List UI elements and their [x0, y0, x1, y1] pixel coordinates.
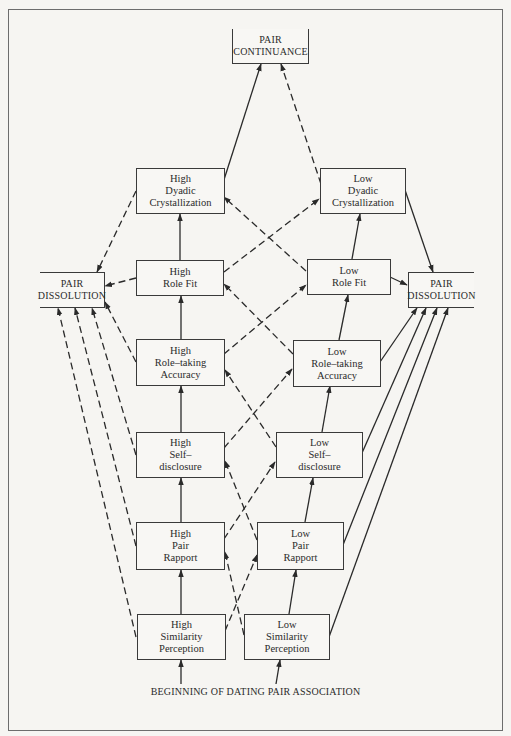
pair-continuance-node: PAIR CONTINUANCE [232, 29, 309, 64]
pair-dissolution-right-line-1: PAIR [430, 278, 453, 290]
node-line: Crystallization [332, 197, 394, 209]
low-role-taking-accuracy-node: Low Role–taking Accuracy [293, 340, 381, 387]
high-role-taking-accuracy-node: High Role–taking Accuracy [136, 339, 225, 386]
high-role-fit-node: High Role Fit [136, 260, 224, 296]
edge-low-self-high-roletaking [225, 370, 276, 447]
node-line: Low [339, 265, 358, 277]
high-self-disclosure-node: High Self– disclosure [136, 432, 225, 478]
node-line: High [171, 619, 192, 631]
node-line: Accuracy [160, 369, 200, 381]
node-line: Pair [292, 540, 309, 552]
edge-low-roletaking-dissolution-right [380, 308, 417, 362]
low-pair-rapport-node: Low Pair Rapport [257, 522, 344, 570]
edge-low-rolefit-low-dyadic [352, 214, 360, 259]
node-line: High [170, 345, 191, 357]
edge-high-similarity-dissolution-left [58, 308, 136, 637]
edge-high-dyadic-dissolution-left [97, 191, 136, 272]
node-line: disclosure [159, 461, 202, 473]
edge-low-dyadic-dissolution-right [405, 190, 433, 272]
pair-dissolution-right-line-2: DISSOLUTION [407, 290, 475, 302]
node-line: Dyadic [165, 185, 195, 197]
node-line: disclosure [298, 461, 341, 473]
node-line: Low [277, 619, 296, 631]
low-self-disclosure-node: Low Self– disclosure [276, 432, 363, 478]
node-line: Similarity [266, 631, 308, 643]
node-line: High [170, 173, 191, 185]
low-similarity-perception-node: Low Similarity Perception [244, 614, 330, 660]
edge-low-rolefit-high-dyadic [224, 197, 306, 271]
node-line: Role Fit [332, 277, 366, 289]
edge-high-self-dissolution-left [92, 308, 136, 455]
edge-low-self-low-roletaking [322, 386, 330, 432]
node-line: Role–taking [311, 358, 362, 370]
node-line: Rapport [164, 552, 198, 564]
low-dyadic-crystallization-node: Low Dyadic Crystallization [320, 168, 406, 214]
edge-low-similarity-high-rapport [225, 552, 244, 635]
start-label: BEGINNING OF DATING PAIR ASSOCIATION [0, 686, 511, 697]
node-line: Self– [169, 449, 191, 461]
pair-dissolution-left-line-1: PAIR [61, 278, 84, 290]
edge-low-dyadic-continuance [281, 64, 321, 184]
edge-low-roletaking-low-rolefit [339, 295, 348, 340]
node-line: Rapport [284, 552, 318, 564]
edge-high-dyadic-continuance [222, 64, 261, 186]
node-line: High [170, 528, 191, 540]
node-line: Perception [159, 643, 204, 655]
node-line: Low [327, 346, 346, 358]
node-line: Crystallization [150, 197, 212, 209]
node-line: Self– [308, 449, 330, 461]
high-dyadic-crystallization-node: High Dyadic Crystallization [136, 168, 225, 214]
edge-low-similarity-low-rapport [289, 570, 296, 614]
edge-start-low-similarity [276, 660, 280, 684]
node-line: Similarity [161, 631, 203, 643]
node-line: Accuracy [317, 370, 357, 382]
pair-dissolution-left-node: PAIR DISSOLUTION [40, 272, 105, 308]
edge-low-rolefit-dissolution-right [390, 277, 407, 285]
node-line: Low [353, 173, 372, 185]
high-pair-rapport-node: High Pair Rapport [136, 522, 225, 570]
edge-low-rapport-low-self [305, 478, 313, 522]
edge-low-roletaking-high-rolefit [224, 284, 293, 354]
edge-high-rolefit-dissolution-left [105, 278, 136, 286]
edge-low-rapport-high-self [225, 461, 257, 540]
node-line: Low [310, 437, 329, 449]
node-line: High [170, 437, 191, 449]
node-line: Perception [265, 643, 310, 655]
node-line: Role–taking [155, 357, 206, 369]
node-line: Pair [172, 540, 189, 552]
node-line: High [170, 266, 191, 278]
pair-dissolution-left-line-2: DISSOLUTION [38, 290, 106, 302]
pair-continuance-line-1: PAIR [259, 34, 282, 46]
node-line: Low [291, 528, 310, 540]
pair-continuance-line-2: CONTINUANCE [233, 46, 307, 58]
pair-dissolution-right-node: PAIR DISSOLUTION [408, 272, 474, 308]
node-line: Role Fit [163, 278, 197, 290]
node-line: Dyadic [348, 185, 378, 197]
high-similarity-perception-node: High Similarity Perception [137, 614, 226, 660]
low-role-fit-node: Low Role Fit [307, 259, 391, 295]
edge-high-roletaking-dissolution-left [105, 302, 136, 362]
edge-high-rapport-dissolution-left [75, 308, 136, 546]
